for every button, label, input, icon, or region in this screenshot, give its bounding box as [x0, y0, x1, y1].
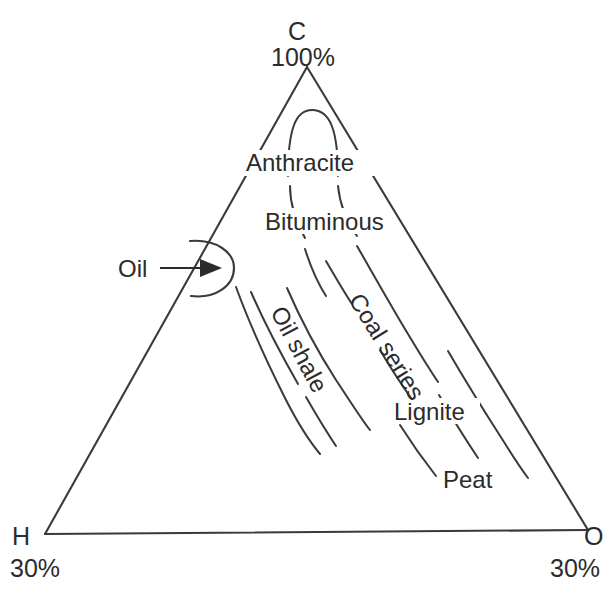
diagram-labels: C 100% H 30% O 30% Anthracite Bituminous… — [10, 17, 603, 582]
apex-value-o: 30% — [550, 554, 600, 582]
region-label-oil: Oil — [118, 255, 147, 282]
ternary-diagram-figure: C 100% H 30% O 30% Anthracite Bituminous… — [0, 0, 609, 594]
region-label-peat: Peat — [443, 466, 493, 493]
curve-oil-shale-right-boundary-lower — [306, 397, 336, 446]
apex-value-h: 30% — [10, 554, 60, 582]
curve-coal-series-left-boundary-upper — [326, 261, 352, 304]
curve-bituminous-left-boundary — [305, 249, 326, 296]
oil-arrow-head-icon — [200, 259, 222, 277]
region-label-bituminous: Bituminous — [265, 208, 384, 235]
apex-label-h: H — [12, 522, 30, 550]
apex-value-c: 100% — [271, 43, 335, 71]
triangle-left-edge — [45, 67, 307, 534]
apex-label-c: C — [288, 17, 306, 45]
curve-lignite-boundary — [400, 425, 436, 476]
region-label-anthracite: Anthracite — [246, 149, 354, 176]
label-backgrounds — [116, 150, 500, 492]
ternary-diagram-svg: C 100% H 30% O 30% Anthracite Bituminous… — [0, 0, 609, 594]
triangle-base-edge — [45, 530, 588, 534]
triangle-outline — [45, 67, 588, 534]
apex-label-o: O — [584, 522, 603, 550]
region-label-lignite: Lignite — [394, 398, 465, 425]
oil-callout-group — [152, 241, 234, 297]
region-label-coal-series: Coal series — [344, 288, 431, 404]
